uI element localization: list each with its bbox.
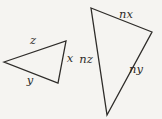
similar-triangles-diagram: z y x nx nz ny <box>0 0 162 119</box>
small-triangle-side-x-label: x <box>67 51 74 65</box>
small-triangle-side-z-label: z <box>29 33 37 47</box>
small-triangle-side-y-label: y <box>26 73 34 87</box>
large-triangle-side-nz-label: nz <box>79 52 93 66</box>
large-triangle-side-ny-label: ny <box>129 62 143 76</box>
large-triangle-side-nx-label: nx <box>119 7 133 21</box>
diagram-svg: z y x nx nz ny <box>0 0 162 119</box>
